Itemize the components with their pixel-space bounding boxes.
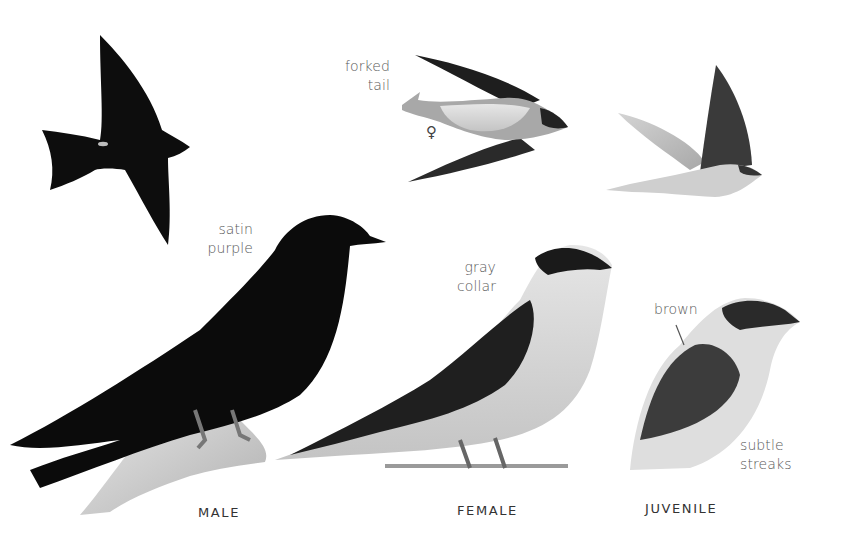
caption-male: MALE	[198, 505, 240, 520]
annotation-line: forked	[330, 57, 390, 76]
field-guide-plate: forked tail ♀ satin purple gray collar b…	[0, 0, 845, 555]
annotation-subtle-streaks: subtle streaks	[740, 436, 792, 474]
caption-juvenile: JUVENILE	[645, 501, 717, 516]
caption-female: FEMALE	[457, 503, 518, 518]
annotation-line: purple	[190, 239, 253, 258]
annotation-line: subtle	[740, 436, 792, 455]
annotation-line: collar	[450, 277, 496, 296]
female-flight-bird-icon	[402, 55, 568, 182]
brown-pointer-line	[676, 325, 684, 345]
illustration-canvas	[0, 0, 845, 555]
male-perched-bird-icon	[10, 215, 386, 515]
juvenile-flight-bird-icon	[606, 65, 762, 197]
annotation-brown: brown	[654, 300, 698, 319]
annotation-line: tail	[330, 76, 390, 95]
male-flight-bird-icon	[42, 35, 190, 245]
female-symbol-icon: ♀	[426, 123, 437, 141]
annotation-line: streaks	[740, 455, 792, 474]
annotation-forked-tail: forked tail	[330, 57, 390, 95]
annotation-line: gray	[450, 258, 496, 277]
annotation-satin-purple: satin purple	[190, 220, 253, 258]
annotation-gray-collar: gray collar	[450, 258, 496, 296]
annotation-line: satin	[190, 220, 253, 239]
